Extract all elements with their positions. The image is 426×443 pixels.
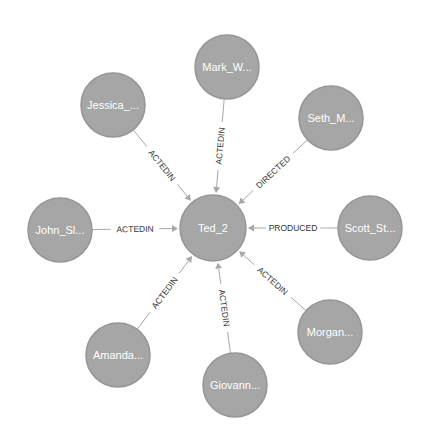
relationship-seth[interactable]: DIRECTED [239, 140, 308, 204]
node-label: Scott_St... [345, 222, 396, 234]
relationship-jessica[interactable]: ACTEDIN [133, 130, 191, 201]
node-giovann[interactable]: Giovann... [203, 353, 267, 417]
relationship-label: ACTEDIN [149, 275, 179, 311]
node-label: John_Sl... [36, 224, 85, 236]
node-morgan[interactable]: Morgan... [298, 300, 362, 364]
edge-line [179, 261, 188, 273]
relationship-amanda[interactable]: ACTEDIN [137, 256, 192, 329]
node-jessica[interactable]: Jessica_... [81, 73, 145, 137]
node-label: Ted_2 [198, 222, 228, 234]
edge-line [291, 297, 306, 311]
relationship-giovann[interactable]: ACTEDIN [215, 263, 232, 354]
node-scott[interactable]: Scott_St... [338, 196, 402, 260]
nodes-layer: Mark_W...Seth_M...Scott_St...Morgan...Gi… [28, 35, 402, 417]
node-john[interactable]: John_Sl... [28, 198, 92, 262]
arrowhead-icon [186, 256, 192, 263]
edge-line [222, 99, 224, 122]
node-label: Seth_M... [307, 112, 354, 124]
relationship-label: ACTEDIN [255, 265, 290, 297]
node-mark[interactable]: Mark_W... [195, 35, 259, 99]
relationship-morgan[interactable]: ACTEDIN [239, 251, 306, 310]
relationship-mark[interactable]: ACTEDIN [213, 99, 227, 193]
relationship-label: ACTEDIN [217, 289, 232, 327]
edge-line [293, 140, 308, 154]
relationship-label: ACTEDIN [116, 224, 153, 234]
edge-line [177, 184, 187, 196]
arrowhead-icon [215, 263, 222, 269]
node-label: Giovann... [210, 379, 260, 391]
arrowhead-icon [184, 194, 191, 201]
node-label: Jessica_... [87, 99, 139, 111]
relationship-label: DIRECTED [254, 154, 293, 191]
arrowhead-icon [172, 225, 178, 232]
relationship-label: ACTEDIN [146, 148, 177, 183]
graph-canvas[interactable]: ACTEDINDIRECTEDPRODUCEDACTEDINACTEDINACT… [0, 0, 426, 443]
relationship-label: ACTEDIN [214, 127, 227, 165]
edge-line [219, 269, 221, 284]
edge-line [133, 130, 147, 147]
edge-line [217, 170, 218, 187]
edge-line [137, 312, 150, 329]
relationship-label: PRODUCED [269, 223, 318, 233]
relationship-john[interactable]: ACTEDIN [92, 224, 178, 234]
node-amanda[interactable]: Amanda... [86, 323, 150, 387]
relationship-scott[interactable]: PRODUCED [248, 223, 338, 233]
node-seth[interactable]: Seth_M... [299, 86, 363, 150]
edge-line [228, 332, 231, 353]
edge-line [244, 255, 255, 265]
node-center-ted[interactable]: Ted_2 [180, 195, 246, 261]
edge-line [243, 191, 253, 201]
node-label: Amanda... [93, 349, 143, 361]
arrowhead-icon [213, 187, 220, 193]
node-label: Mark_W... [202, 61, 252, 73]
node-label: Morgan... [307, 326, 353, 338]
arrowhead-icon [248, 225, 254, 232]
